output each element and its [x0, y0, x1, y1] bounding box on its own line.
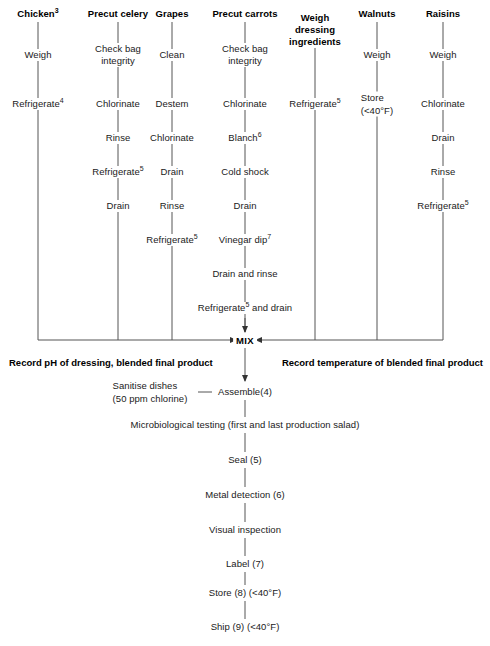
chain-step-3: Seal (5): [226, 454, 264, 466]
step-precut-celery-5: Drain: [105, 200, 132, 212]
step-chicken-1: Weigh: [22, 49, 53, 61]
step-grapes-5: Rinse: [158, 200, 187, 212]
chain-step-4: Metal detection (6): [203, 489, 287, 501]
column-header-raisins: Raisins: [424, 8, 462, 20]
step-raisins-3: Drain: [430, 132, 457, 144]
step-precut-celery-4: Refrigerate5: [90, 166, 146, 178]
step-precut-carrots-4: Cold shock: [219, 166, 271, 178]
step-precut-celery-3: Rinse: [104, 132, 133, 144]
chain-step-7: Store (8) (<40°F): [207, 587, 284, 599]
step-weigh-dressing-ingredients-1: Refrigerate5: [287, 98, 343, 110]
flowchart-canvas: [0, 0, 490, 646]
column-header-precut-celery: Precut celery: [86, 8, 150, 20]
record-ph-note: Record pH of dressing, blended final pro…: [8, 357, 214, 368]
step-walnuts-2: Store(<40°F): [359, 92, 395, 117]
step-precut-carrots-5: Drain: [232, 200, 259, 212]
step-chicken-2: Refrigerate4: [10, 98, 66, 110]
column-header-grapes: Grapes: [153, 8, 190, 20]
step-precut-carrots-8: Refrigerate5 and drain: [196, 302, 294, 314]
column-header-weigh-dressing-ingredients: Weighdressingingredients: [281, 12, 349, 48]
step-precut-celery-1: Check bagintegrity: [87, 43, 149, 67]
step-grapes-2: Destem: [153, 98, 190, 110]
record-temp-note: Record temperature of blended final prod…: [281, 357, 484, 368]
step-grapes-3: Chlorinate: [148, 132, 196, 144]
step-raisins-5: Refrigerate5: [415, 200, 471, 212]
step-grapes-1: Clean: [157, 49, 186, 61]
step-grapes-6: Refrigerate5: [144, 234, 200, 246]
step-precut-celery-2: Chlorinate: [94, 98, 142, 110]
chain-step-5: Visual inspection: [207, 524, 283, 536]
step-raisins-2: Chlorinate: [419, 98, 467, 110]
column-header-precut-carrots: Precut carrots: [210, 8, 279, 20]
step-precut-carrots-2: Chlorinate: [221, 98, 269, 110]
chain-step-2: Microbiological testing (first and last …: [129, 419, 362, 431]
step-precut-carrots-7: Drain and rinse: [210, 268, 279, 280]
column-header-chicken: Chicken3: [15, 8, 60, 20]
chain-step-6: Label (7): [224, 558, 266, 570]
step-precut-carrots-6: Vinegar dip7: [217, 234, 273, 246]
step-walnuts-1: Weigh: [361, 49, 392, 61]
step-raisins-4: Rinse: [429, 166, 458, 178]
mix-node: MIX: [233, 335, 257, 346]
step-precut-carrots-1: Check bagintegrity: [214, 43, 276, 67]
step-raisins-1: Weigh: [427, 49, 458, 61]
step-grapes-4: Drain: [159, 166, 186, 178]
chain-step-1: Assemble(4): [216, 386, 274, 398]
chain-step-8: Ship (9) (<40°F): [209, 621, 282, 633]
step-precut-carrots-3: Blanch6: [226, 132, 263, 144]
column-header-walnuts: Walnuts: [357, 8, 398, 20]
sanitise-dishes-node: Sanitise dishes(50 ppm chlorine): [111, 380, 190, 405]
